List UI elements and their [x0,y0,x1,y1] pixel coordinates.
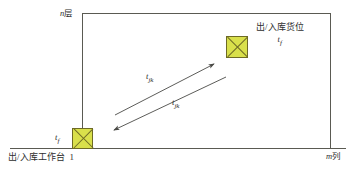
inbound-time-subscript: jk [174,102,179,110]
inbound-time-label: tjk [172,98,179,110]
outbound-time-subscript: jk [148,76,153,84]
warehouse-travel-path-diagram: n层 m列 出/入库货位 tf tf 出/入库工作台1 tjk tjk [0,0,356,176]
travel-path-arrows [0,0,356,176]
outbound-time-label: tjk [146,72,153,84]
inbound-path-arrow [114,77,226,130]
